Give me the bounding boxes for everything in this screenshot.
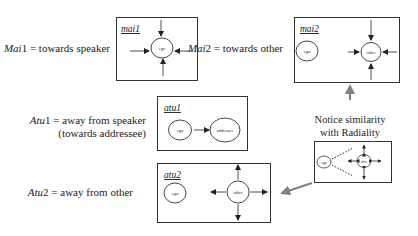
radiality-dotted-line-upper xyxy=(332,148,353,159)
atu1-addressee-label: addressee xyxy=(217,128,234,133)
atu2-label: Atu2 = away from other xyxy=(27,186,134,198)
diagram-canvas: Mai1 = towards speaker mai1 ego Mai2 = t… xyxy=(0,0,418,236)
mai1-label: Mai1 = towards speaker xyxy=(3,42,110,54)
atu1-label: Atu1 = away from speaker xyxy=(29,114,147,126)
atu1-title: atu1 xyxy=(164,103,181,113)
mai2-group: Mai2 = towards other mai2 ego other xyxy=(187,18,400,83)
atu2-group: Atu2 = away from other atu2 ego other xyxy=(27,164,271,223)
atu1-group: Atu1 = away from speaker (towards addres… xyxy=(29,97,248,151)
mai1-group: Mai1 = towards speaker mai1 ego xyxy=(3,18,198,81)
mai2-ego-label: ego xyxy=(304,49,311,54)
mai2-label: Mai2 = towards other xyxy=(187,42,283,54)
note-line1: Notice similarity xyxy=(315,114,387,125)
radiality-other-label: other xyxy=(361,160,368,164)
radiality-ego-label: ego xyxy=(321,161,327,165)
atu1-label-line2: (towards addressee) xyxy=(58,127,146,140)
mai1-ego-label: ego xyxy=(159,46,166,51)
atu2-title: atu2 xyxy=(164,170,181,180)
atu1-ego-label: ego xyxy=(177,128,184,133)
mai2-other-label: other xyxy=(367,50,376,55)
radiality-dotted-line-lower xyxy=(332,165,353,176)
mai1-title: mai1 xyxy=(121,24,140,34)
mai2-title: mai2 xyxy=(300,24,319,34)
atu2-other-label: other xyxy=(233,190,243,195)
gray-arrow-diagonal-icon xyxy=(282,183,312,193)
note-line2: with Radiality xyxy=(320,127,381,138)
atu2-ego-label: ego xyxy=(172,191,179,196)
radiality-group: Notice similarity with Radiality ego oth… xyxy=(315,114,392,183)
